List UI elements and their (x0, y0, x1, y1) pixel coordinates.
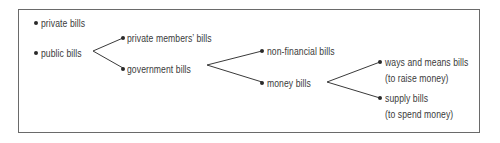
node-supply-note: (to spend money) (385, 108, 453, 120)
node-non-financial-bills: non-financial bills (267, 45, 335, 57)
bullet-icon (34, 21, 38, 25)
connector-government (207, 51, 262, 82)
bullet-icon (378, 60, 382, 64)
connector-money (327, 62, 380, 98)
bullet-icon (121, 36, 125, 40)
bullet-icon (34, 51, 38, 55)
connector-public (93, 38, 123, 68)
bullet-icon (121, 67, 125, 71)
node-public-bills: public bills (41, 47, 82, 59)
node-ways-and-means-bills: ways and means bills (385, 56, 468, 68)
bullet-icon (378, 96, 382, 100)
node-money-bills: money bills (267, 77, 311, 89)
bullet-icon (260, 81, 264, 85)
node-private-members-bills: private members’ bills (127, 32, 212, 44)
bullet-icon (260, 49, 264, 53)
node-private-bills: private bills (41, 17, 85, 29)
node-ways-and-means-note: (to raise money) (385, 72, 449, 84)
node-supply-bills: supply bills (385, 92, 428, 104)
node-government-bills: government bills (127, 63, 191, 75)
